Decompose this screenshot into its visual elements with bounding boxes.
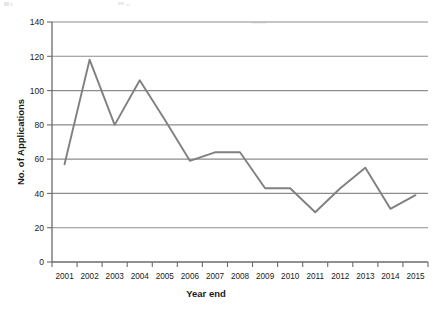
y-tick-label-140: 140 [30,17,44,27]
x-axis-title: Year end [186,288,226,299]
chart-canvas: 140 120 100 80 60 40 20 0 [0,0,438,311]
x-tick-label-2001: 2001 [55,272,74,281]
x-tick-label-2015: 2015 [406,272,425,281]
x-tick-label-2002: 2002 [80,272,99,281]
y-axis-tick-labels: 140 120 100 80 60 40 20 0 [30,17,44,267]
x-tick-label-2007: 2007 [206,272,225,281]
x-tick-label-2003: 2003 [106,272,125,281]
x-tick-label-2011: 2011 [306,272,324,281]
x-tick-label-2004: 2004 [131,272,150,281]
y-tick-label-40: 40 [35,189,45,199]
y-axis-ticks [47,22,52,262]
x-tick-label-2009: 2009 [256,272,275,281]
x-tick-label-2010: 2010 [281,272,300,281]
line-chart-figure: 140 120 100 80 60 40 20 0 [0,0,438,311]
y-tick-label-100: 100 [30,86,44,96]
x-tick-label-2012: 2012 [331,272,350,281]
x-tick-label-2008: 2008 [231,272,250,281]
y-tick-label-80: 80 [35,120,45,130]
y-tick-label-20: 20 [35,223,45,233]
y-tick-label-120: 120 [30,52,44,62]
x-tick-label-2005: 2005 [156,272,175,281]
y-tick-label-60: 60 [35,154,45,164]
x-axis-ticks [52,262,428,267]
data-series-line [65,60,416,213]
y-axis-title: No. of Applications [15,99,26,185]
gridlines [52,22,428,228]
y-tick-label-0: 0 [39,257,44,267]
x-tick-label-2006: 2006 [181,272,200,281]
x-tick-label-2014: 2014 [381,272,400,281]
x-axis-tick-labels: 2001 2002 2003 2004 2005 2006 2007 2008 … [55,272,425,281]
x-tick-label-2013: 2013 [356,272,375,281]
